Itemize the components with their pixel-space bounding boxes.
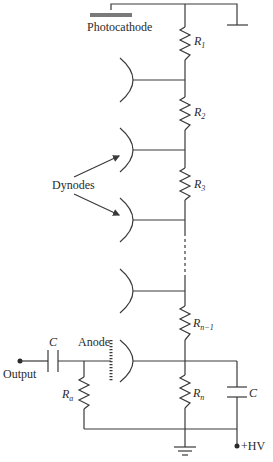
photocathode-plate <box>90 13 132 17</box>
c-out-label: C <box>49 335 58 349</box>
resistor-rn-1 <box>180 306 190 340</box>
anode-label: Anode <box>78 335 110 349</box>
dynodes-label: Dynodes <box>52 178 95 192</box>
resistor-r1 <box>180 27 190 60</box>
hv-terminal <box>235 444 240 449</box>
ra-label: Ra <box>61 387 73 403</box>
r2-label: R2 <box>193 105 205 121</box>
pmt-divider-circuit: Photocathode R1 R2 R3 Rn−1 Dynodes Anode <box>0 0 273 462</box>
rn-1-label: Rn−1 <box>192 316 214 332</box>
resistor-r2 <box>180 97 190 130</box>
arrow-to-dynode-2 <box>74 156 119 177</box>
rn-label: Rn <box>192 386 204 402</box>
dynode-3 <box>120 198 133 242</box>
arrow-to-dynode-3 <box>74 194 119 215</box>
c-hv-label: C <box>249 386 258 400</box>
resistor-r3 <box>180 168 190 200</box>
r3-label: R3 <box>193 177 205 193</box>
dynode-1 <box>120 58 133 102</box>
ground-icon-bottom <box>174 447 196 455</box>
anode-dynode <box>120 340 133 382</box>
dynode-4 <box>120 269 133 313</box>
resistor-ra <box>79 377 89 409</box>
r1-label: R1 <box>193 34 205 50</box>
photocathode-label: Photocathode <box>87 20 152 34</box>
resistor-rn <box>180 375 190 408</box>
dynode-2 <box>120 128 133 172</box>
output-label: Output <box>3 367 37 381</box>
hv-label: +HV <box>241 439 265 453</box>
